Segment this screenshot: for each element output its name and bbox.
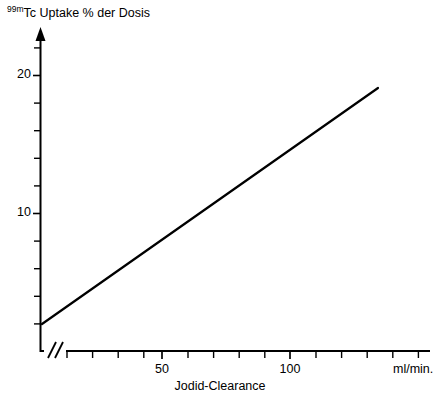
y-axis-arrow-icon — [36, 27, 46, 41]
y-axis-major-ticks — [33, 76, 41, 214]
plot-area — [0, 0, 439, 399]
data-series-regression-line — [42, 88, 378, 324]
x-axis-ticks — [67, 351, 418, 359]
chart-figure: 99mTc Uptake % der Dosis 20 10 50 100 Jo… — [0, 0, 439, 399]
axis-break-icon — [44, 342, 66, 358]
